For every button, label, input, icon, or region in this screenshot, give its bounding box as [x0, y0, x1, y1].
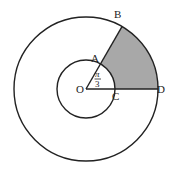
- label-b: B: [114, 8, 121, 20]
- label-c: C: [112, 90, 119, 102]
- angle-label-pi-over-3: π 3: [95, 69, 102, 89]
- label-o: O: [76, 83, 84, 95]
- label-a: A: [91, 52, 99, 64]
- angle-denominator: 3: [95, 79, 100, 89]
- angle-numerator: π: [95, 69, 100, 79]
- annulus-sector-diagram: O A B C D π 3: [0, 0, 176, 178]
- label-d: D: [157, 83, 165, 95]
- shaded-region-abdc: [101, 27, 159, 89]
